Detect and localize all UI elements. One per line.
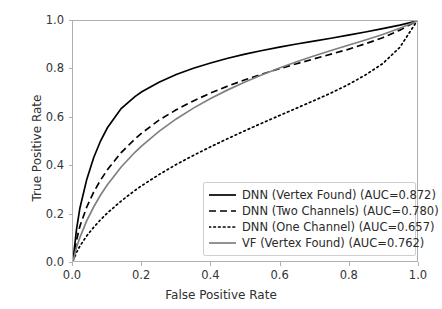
x-tick-mark [349,262,350,266]
x-axis-label: False Positive Rate [0,288,442,302]
legend-label: DNN (One Channel) (AUC=0.657) [242,221,434,234]
legend-item: DNN (Vertex Found) (AUC=0.872) [209,187,409,203]
x-tick-label: 0.0 [63,268,81,282]
legend-item: DNN (One Channel) (AUC=0.657) [209,219,409,235]
legend-line-swatch [209,205,236,217]
roc-curve-figure: 0.00.20.40.60.81.00.00.20.40.60.81.0 Fal… [0,0,442,309]
legend-line-swatch [209,221,236,233]
legend-label: VF (Vertex Found) (AUC=0.762) [242,237,424,250]
x-tick-mark [210,262,211,266]
legend-item: VF (Vertex Found) (AUC=0.762) [209,235,409,251]
legend-label: DNN (Vertex Found) (AUC=0.872) [242,189,436,202]
y-tick-mark [69,165,73,166]
legend: DNN (Vertex Found) (AUC=0.872)DNN (Two C… [203,182,416,256]
y-tick-mark [69,68,73,69]
x-tick-label: 1.0 [409,268,427,282]
legend-label: DNN (Two Channels) (AUC=0.780) [242,205,439,218]
y-tick-label: 0.0 [28,255,64,269]
y-tick-mark [69,214,73,215]
x-tick-label: 0.2 [132,268,150,282]
y-tick-mark [69,117,73,118]
legend-item: DNN (Two Channels) (AUC=0.780) [209,203,409,219]
x-tick-mark [280,262,281,266]
x-tick-mark [72,262,73,266]
x-tick-label: 0.4 [201,268,219,282]
x-tick-label: 0.6 [270,268,288,282]
x-tick-mark [418,262,419,266]
y-axis-label: True Positive Rate [30,48,44,248]
legend-line-swatch [209,189,236,201]
y-tick-mark [69,262,73,263]
y-tick-mark [69,20,73,21]
y-tick-label: 1.0 [28,13,64,27]
x-tick-label: 0.8 [340,268,358,282]
legend-line-swatch [209,237,236,249]
x-tick-mark [141,262,142,266]
